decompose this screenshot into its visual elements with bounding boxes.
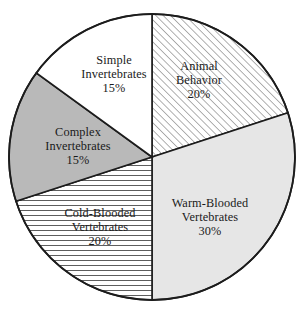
slice-label-line: Invertebrates [81,68,146,82]
slice-percent-cold-blooded-vertebrates: 20% [65,235,136,249]
slice-label-line: Invertebrates [45,140,110,154]
slice-label-line: Vertebrates [65,221,136,235]
slice-label-line: Cold-Blooded [65,207,136,221]
slice-label-line: Animal [176,60,222,74]
slice-percent-simple-invertebrates: 15% [81,82,146,96]
slice-label-line: Vertebrates [172,211,249,225]
slice-label-line: Simple [81,54,146,68]
slice-label-simple-invertebrates: SimpleInvertebrates15% [81,54,146,95]
slice-label-complex-invertebrates: ComplexInvertebrates15% [45,126,110,167]
slice-percent-animal-behavior: 20% [176,88,222,102]
slice-label-warm-blooded-vertebrates: Warm-BloodedVertebrates30% [172,197,249,238]
slice-label-cold-blooded-vertebrates: Cold-BloodedVertebrates20% [65,207,136,248]
slice-label-line: Behavior [176,74,222,88]
slice-percent-warm-blooded-vertebrates: 30% [172,225,249,239]
pie-chart: AnimalBehavior20%Warm-BloodedVertebrates… [0,0,305,316]
slice-percent-complex-invertebrates: 15% [45,154,110,168]
slice-label-animal-behavior: AnimalBehavior20% [176,60,222,101]
slice-label-line: Complex [45,126,110,140]
slice-label-line: Warm-Blooded [172,197,249,211]
